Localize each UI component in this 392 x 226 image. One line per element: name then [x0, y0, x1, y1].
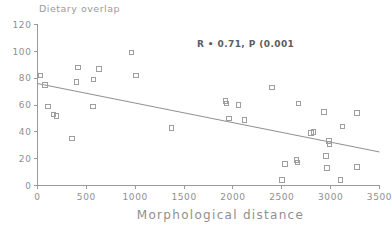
x-tick-label: 0 — [34, 192, 40, 202]
data-point-marker — [91, 77, 96, 82]
y-tick-label: 0 — [25, 181, 31, 191]
x-tick-label: 1500 — [171, 192, 196, 202]
x-tick-label: 2500 — [269, 192, 294, 202]
data-point-marker — [296, 101, 301, 106]
y-tick-label: 120 — [13, 20, 32, 30]
data-point-marker — [134, 73, 139, 78]
y-tick-label: 100 — [13, 47, 32, 57]
x-tick-label: 500 — [77, 192, 96, 202]
data-point-marker — [74, 80, 79, 85]
data-point-marker — [76, 65, 81, 70]
data-point-marker — [227, 116, 232, 121]
data-point-marker — [69, 136, 74, 141]
data-point-marker — [38, 73, 43, 78]
data-point-marker — [324, 166, 329, 171]
x-tick-label: 1000 — [123, 192, 148, 202]
data-point-marker — [97, 66, 102, 71]
data-point-marker — [242, 117, 247, 122]
data-point-marker — [338, 178, 343, 183]
y-tick-label: 40 — [19, 127, 32, 137]
data-point-marker — [236, 103, 241, 108]
data-point-marker — [54, 113, 59, 118]
data-point-marker — [322, 109, 327, 114]
data-point-marker — [323, 154, 328, 159]
x-tick-label: 3500 — [367, 192, 392, 202]
scatter-plot-figure: 0204060801001200500100015002000250030003… — [0, 0, 392, 226]
x-tick-label: 3000 — [318, 192, 343, 202]
data-point-marker — [51, 112, 56, 117]
plot-canvas: 0204060801001200500100015002000250030003… — [0, 0, 392, 226]
y-tick-label: 60 — [19, 100, 32, 110]
x-axis-title: Morphological distance — [137, 208, 304, 222]
data-point-marker — [282, 162, 287, 167]
data-point-marker — [169, 126, 174, 131]
y-axis-title: Dietary overlap — [39, 3, 120, 14]
data-point-marker — [90, 104, 95, 109]
data-point-marker — [355, 164, 360, 169]
correlation-annotation: R • 0.71, P (0.001 — [197, 39, 294, 49]
y-tick-label: 80 — [19, 73, 32, 83]
y-tick-label: 20 — [19, 154, 32, 164]
data-point-marker — [129, 50, 134, 55]
x-tick-label: 2000 — [220, 192, 245, 202]
data-point-marker — [270, 85, 275, 90]
data-point-marker — [340, 124, 345, 129]
data-point-marker — [355, 111, 360, 116]
data-point-marker — [279, 178, 284, 183]
data-point-marker — [46, 104, 51, 109]
